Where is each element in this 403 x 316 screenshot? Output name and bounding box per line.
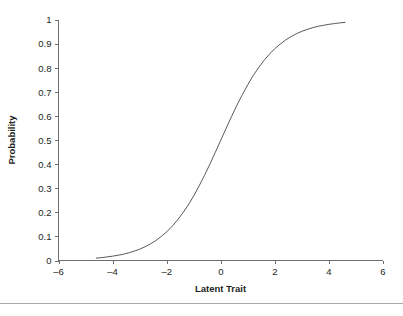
y-tick-label: 0.1 (38, 231, 51, 242)
y-tick-label: 0.3 (38, 183, 51, 194)
footer-divider (0, 303, 403, 304)
y-tick-label: 0.8 (38, 63, 51, 74)
y-tick-label: 0.2 (38, 207, 51, 218)
y-axis-ticks: 00.10.20.30.40.50.60.70.80.91 (38, 14, 58, 266)
y-tick-label: 0.6 (38, 111, 51, 122)
x-tick-label: 2 (272, 266, 277, 277)
y-tick-label: 0.7 (38, 87, 51, 98)
probability-latent-trait-chart: 00.10.20.30.40.50.60.70.80.91 –6–4–20246… (0, 0, 403, 316)
x-tick-label: 4 (326, 266, 331, 277)
x-tick-label: 6 (380, 266, 385, 277)
y-axis-title: Probability (6, 115, 17, 165)
x-tick-label: –2 (161, 266, 172, 277)
y-tick-label: 0.9 (38, 38, 51, 49)
figure-container: 00.10.20.30.40.50.60.70.80.91 –6–4–20246… (0, 0, 403, 316)
x-tick-label: 0 (218, 266, 223, 277)
y-tick-label: 0.5 (38, 135, 51, 146)
x-tick-label: –4 (107, 266, 118, 277)
x-axis-title: Latent Trait (195, 283, 247, 294)
y-tick-label: 0 (46, 255, 51, 266)
x-axis-ticks: –6–4–20246 (53, 261, 385, 277)
y-tick-label: 0.4 (38, 159, 51, 170)
y-tick-label: 1 (46, 14, 51, 25)
item-characteristic-curve (96, 22, 345, 258)
x-tick-label: –6 (53, 266, 64, 277)
